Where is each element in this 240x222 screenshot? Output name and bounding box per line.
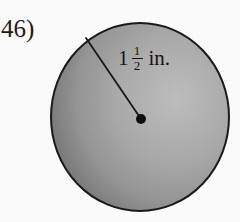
center-dot (136, 114, 146, 124)
radius-measurement-label: 1 1 2 in. (118, 45, 170, 72)
radius-whole-number: 1 (118, 48, 129, 69)
problem-number-label: 46) (1, 16, 34, 42)
radius-fraction: 1 2 (132, 45, 143, 72)
geometry-figure-panel: 46) 1 1 2 in. (0, 0, 240, 222)
fraction-denominator: 2 (134, 59, 141, 72)
fraction-numerator: 1 (134, 45, 141, 58)
radius-unit-label: in. (149, 48, 171, 69)
